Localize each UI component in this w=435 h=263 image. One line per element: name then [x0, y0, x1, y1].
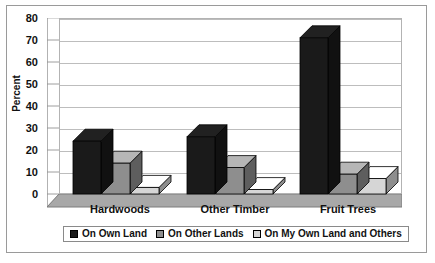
legend-label-3: On My Own Land and Others: [265, 229, 402, 239]
legend-label-2: On Other Lands: [168, 229, 244, 239]
legend-swatch-icon-1: [70, 230, 78, 238]
y-tick-20: 20: [4, 145, 38, 156]
x-axis-category-labels: Hardwoods Other Timber Fruit Trees: [47, 203, 404, 219]
legend-item-on-other-lands[interactable]: On Other Lands: [156, 229, 244, 239]
bar-hardwoods-series-1[interactable]: [73, 129, 113, 194]
plot-area: [47, 18, 402, 202]
category-label-other-timber: Other Timber: [180, 203, 290, 215]
y-tick-30: 30: [4, 123, 38, 134]
category-label-hardwoods: Hardwoods: [65, 203, 175, 215]
bars-svg: [47, 18, 402, 207]
category-label-fruit-trees: Fruit Trees: [293, 203, 403, 215]
legend-item-on-own-land[interactable]: On Own Land: [70, 229, 147, 239]
y-tick-10: 10: [4, 167, 38, 178]
bar-fruit-trees-series-1[interactable]: [300, 26, 340, 194]
bar-other-timber-series-1[interactable]: [187, 125, 227, 194]
legend-label-1: On Own Land: [82, 229, 147, 239]
y-axis-title: Percent: [11, 64, 22, 124]
legend-item-on-my-own-land-and-others[interactable]: On My Own Land and Others: [253, 229, 402, 239]
y-tick-0: 0: [4, 189, 38, 200]
legend-swatch-icon-3: [253, 230, 261, 238]
chart-figure: 80 70 60 50 40 30 20 10 0 Percent: [0, 0, 435, 263]
legend-swatch-icon-2: [156, 230, 164, 238]
y-tick-70: 70: [4, 35, 38, 46]
chart-legend: On Own Land On Other Lands On My Own Lan…: [63, 226, 409, 242]
bar-series-container: [47, 18, 402, 207]
y-tick-80: 80: [4, 13, 38, 24]
